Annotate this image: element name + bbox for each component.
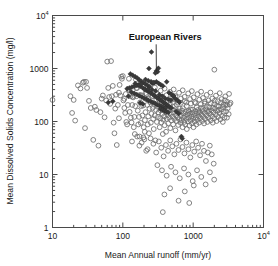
x-tick-label: 100 (116, 231, 130, 241)
y-tick-label: 1000 (30, 64, 49, 74)
scatter-plot: 1010010001041101001000104 European River… (0, 0, 278, 266)
y-tick-label: 1 (44, 223, 49, 233)
x-tick-label: 1000 (184, 231, 203, 241)
x-axis-title: Mean Annual runoff (mm/yr) (105, 250, 211, 260)
y-axis-title: Mean Dissolved Solids Concentration (mg/… (5, 37, 15, 204)
y-tick-label: 10 (39, 170, 49, 180)
y-tick-label: 100 (34, 117, 48, 127)
annotation-european-rivers: European Rivers (129, 32, 202, 42)
chart-figure: 1010010001041101001000104 European River… (0, 0, 278, 266)
x-tick-label: 10 (48, 231, 58, 241)
